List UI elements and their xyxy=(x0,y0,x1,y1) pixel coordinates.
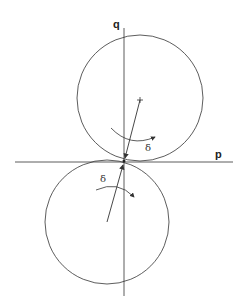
rolling-circles-diagram: q p δ δ xyxy=(0,0,246,307)
lower-radius-arrow xyxy=(107,165,123,222)
contact-point xyxy=(123,160,126,163)
p-axis-label: p xyxy=(215,148,222,160)
q-axis-label: q xyxy=(113,18,120,30)
lower-angle-label: δ xyxy=(100,173,106,184)
upper-radius-arrow xyxy=(125,100,140,158)
upper-angle-label: δ xyxy=(145,142,151,153)
lower-rotation-arrow xyxy=(96,186,134,197)
upper-rotation-arrow xyxy=(111,128,155,141)
